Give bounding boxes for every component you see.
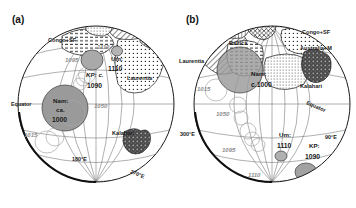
label-umkondo-b-line1: Um: [279, 131, 291, 138]
label-namaqua-a-line1: Nam: [53, 97, 68, 104]
graticule-label-a-180e: 180°E [72, 156, 87, 162]
isochron-b-1050: 1050 [216, 111, 230, 117]
graticule-label-b-90e: 90°E [325, 134, 337, 140]
label-keweenawan-a-line2: 1090 [87, 82, 102, 89]
label-keweenawan-b-line1: KP: [309, 142, 320, 149]
label-laurentia-b: Laurentia [179, 58, 205, 64]
label-keweenawan-a-line1: KP: c. [86, 71, 104, 78]
figure-container: (a) Congo+SF Laurentia Kalahari Um: 1110… [0, 0, 356, 208]
label-umkondo-a-line2: 1110 [108, 65, 123, 72]
label-keweenawan-b-line2: 1090 [305, 153, 320, 160]
pole-ellipse-umkondo-b [275, 151, 287, 161]
label-baltica-b: Baltica [229, 40, 248, 46]
label-namaqua-b-line2: c.1000 [251, 81, 272, 88]
graticule-label-a-equator: Equator [11, 101, 32, 107]
label-laurentia-a: Laurentia [127, 75, 153, 81]
isochron-a-1015: 1015 [24, 132, 38, 138]
continent-shape-kalahari-b [302, 49, 332, 83]
continent-shape-hatched-b-1 [216, 21, 249, 38]
label-congo-sf-b: Congo+SF [302, 29, 331, 35]
panel-a-tag: (a) [12, 14, 24, 25]
label-congo-sf-a: Congo+SF [48, 37, 77, 43]
panel-b-tag: (b) [186, 14, 199, 25]
label-kalahari-b: Kalahari [300, 83, 323, 89]
pole-ellipse-keweenawan-b [295, 163, 317, 181]
panel-a-globe-body [18, 19, 174, 182]
label-umkondo-b-line2: 1110 [277, 142, 292, 149]
pole-ellipse-keweenawan-a [81, 50, 103, 70]
label-umkondo-a-line1: Um: [111, 55, 123, 62]
label-namaqua-a-line2: ca. [56, 106, 65, 113]
label-namaqua-a-line3: 1000 [52, 116, 67, 123]
isochron-a-1050: 1050 [94, 103, 108, 109]
isochron-b-1110: 1110 [248, 172, 261, 178]
figure-svg: (a) Congo+SF Laurentia Kalahari Um: 1110… [0, 0, 356, 208]
graticule-label-b-300e: 300°E [180, 131, 195, 137]
label-australia-m-b: Australia+M [300, 45, 332, 51]
isochron-b-1015: 1015 [197, 86, 211, 92]
panel-a: (a) Congo+SF Laurentia Kalahari Um: 1110… [11, 14, 174, 182]
graticule-label-a-270e: 270°E [130, 168, 146, 179]
isochron-a-1095: 1095 [65, 57, 79, 63]
continent-shape-hatched-a-1 [108, 19, 147, 40]
isochron-b-1095: 1095 [222, 147, 236, 153]
isochron-a-1110: 1110 [97, 44, 110, 50]
label-kalahari-a: Kalahari [112, 130, 135, 136]
continent-shape-dotfine-a [86, 21, 112, 36]
panel-b: (b) Laurentia Baltica Congo+SF Australia… [179, 14, 350, 182]
label-namaqua-b-line1: Nam: [251, 70, 266, 77]
